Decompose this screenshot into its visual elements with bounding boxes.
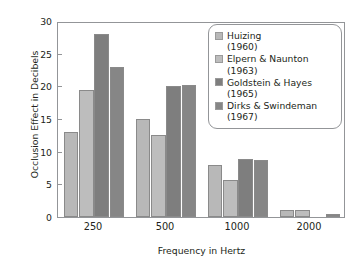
- y-axis-tick-label: 0: [46, 212, 52, 223]
- legend-item: Goldstein & Hayes(1965): [215, 77, 337, 99]
- y-axis-tick-label: 20: [40, 81, 52, 92]
- x-axis-tick-label: 500: [156, 221, 175, 232]
- legend-item-label: Dirks & Swindeman: [227, 100, 317, 111]
- bar: [238, 159, 253, 217]
- legend-item-year: (1965): [227, 88, 312, 99]
- legend-swatch-icon: [215, 102, 223, 110]
- bar: [136, 119, 151, 217]
- y-axis-tick-label: 30: [40, 16, 52, 27]
- legend-item: Elpern & Naunton(1963): [215, 53, 337, 75]
- legend-item-label: Goldstein & Hayes: [227, 77, 312, 88]
- bar: [223, 180, 238, 217]
- legend-swatch-icon: [215, 32, 223, 40]
- legend-item-year: (1960): [227, 41, 261, 52]
- bar: [79, 90, 94, 217]
- y-axis-tick-label: 5: [46, 179, 52, 190]
- y-axis-tick-mark: [58, 184, 62, 185]
- bar: [64, 132, 79, 217]
- bar: [166, 86, 181, 217]
- y-axis-title: Occlusion Effect in Decibels: [29, 15, 40, 215]
- legend-item-label: Elpern & Naunton: [227, 53, 308, 64]
- legend-item-label: Huizing: [227, 30, 261, 41]
- y-axis-tick-mark: [58, 86, 62, 87]
- x-axis-tick-label: 2000: [297, 221, 322, 232]
- y-axis-tick-mark: [58, 152, 62, 153]
- y-axis-tick-mark: [58, 119, 62, 120]
- legend-swatch-icon: [215, 78, 223, 86]
- legend-item: Dirks & Swindeman(1967): [215, 100, 337, 122]
- x-axis-tick-label: 1000: [225, 221, 250, 232]
- bar: [326, 214, 341, 217]
- y-axis-tick-label: 10: [40, 146, 52, 157]
- bar-chart-figure: Occlusion Effect in Decibels 05101520253…: [0, 0, 361, 268]
- bar: [254, 160, 269, 217]
- y-axis-tick-mark: [58, 54, 62, 55]
- legend-item-year: (1963): [227, 65, 308, 76]
- bar: [151, 135, 166, 217]
- legend-swatch-icon: [215, 55, 223, 63]
- legend-item-year: (1967): [227, 111, 317, 122]
- x-axis-title: Frequency in Hertz: [57, 245, 346, 256]
- legend-item: Huizing(1960): [215, 30, 337, 52]
- y-axis-tick-label: 25: [40, 48, 52, 59]
- bar: [94, 34, 109, 217]
- legend: Huizing(1960)Elpern & Naunton(1963)Golds…: [208, 24, 342, 129]
- y-axis-tick-label: 15: [40, 114, 52, 125]
- bar: [208, 165, 223, 217]
- bar: [280, 210, 295, 217]
- bar: [295, 210, 310, 217]
- x-axis-tick-label: 250: [84, 221, 103, 232]
- bar: [110, 67, 125, 217]
- bar: [182, 85, 197, 217]
